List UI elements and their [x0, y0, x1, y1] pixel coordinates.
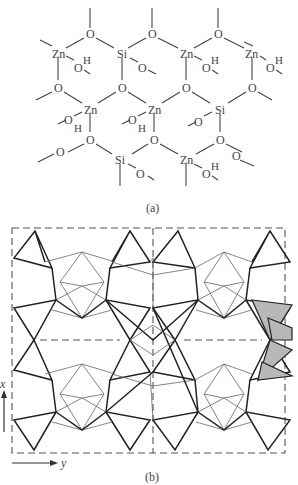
y-axis-arrowhead-icon [50, 460, 58, 466]
hydroxyl-oxygen: O [202, 167, 211, 181]
oxygen-atom: O [248, 81, 257, 95]
zinc-atom: Zn [245, 47, 258, 61]
zinc-atom: Zn [148, 103, 161, 117]
oxygen-atom: O [182, 81, 191, 95]
zinc-atom: Zn [84, 103, 97, 117]
oxygen-atom: O [86, 133, 95, 147]
y-axis-label: y [60, 456, 67, 470]
connecting-octahedra [45, 252, 252, 430]
hydroxyl-oxygen: O [74, 61, 83, 75]
silicon-atom: Si [115, 153, 126, 167]
silicon-atom: Si [215, 103, 226, 117]
zinc-atom: Zn [180, 47, 193, 61]
hydroxyl-hydrogen: H [138, 122, 146, 134]
hydroxyl-hydrogen: H [211, 54, 219, 66]
x-axis-arrowhead-icon [1, 390, 7, 398]
panel-a-atom-labels: O O O Zn Si Zn Zn O H O O H O H O O O O … [52, 27, 283, 181]
panel-b-polyhedral-projection: x y (b) [0, 228, 292, 484]
zinc-atom: Zn [180, 153, 193, 167]
hydroxyl-hydrogen: H [211, 160, 219, 172]
zinc-atom: Zn [52, 47, 65, 61]
panel-a-bonds [36, 8, 282, 186]
oxygen-atom: O [148, 27, 157, 41]
hydroxyl-hydrogen: H [275, 54, 283, 66]
hydroxyl-oxygen: O [266, 61, 275, 75]
hydroxyl-oxygen: O [128, 113, 137, 127]
silicon-atom: Si [117, 47, 128, 61]
oxygen-atom: O [214, 27, 223, 41]
structure-figure: O O O Zn Si Zn Zn O H O O H O H O O O O … [0, 0, 298, 485]
oxygen-atom: O [54, 81, 63, 95]
oxygen-atom: O [216, 133, 225, 147]
oxygen-atom: O [56, 145, 65, 159]
oxygen-atom: O [138, 61, 147, 75]
oxygen-atom: O [150, 133, 159, 147]
oxygen-atom: O [86, 27, 95, 41]
oxygen-atom: O [232, 149, 241, 163]
hydroxyl-hydrogen: H [74, 122, 82, 134]
panel-a-molecular-network: O O O Zn Si Zn Zn O H O O H O H O O O O … [36, 8, 283, 215]
shaded-polyhedron-chain [252, 300, 292, 380]
oxygen-atom: O [136, 167, 145, 181]
hydroxyl-hydrogen: H [83, 54, 91, 66]
hydroxyl-oxygen: O [64, 113, 73, 127]
hydroxyl-oxygen: O [202, 61, 211, 75]
oxygen-atom: O [194, 115, 203, 129]
panel-b-caption: (b) [145, 470, 159, 484]
oxygen-atom: O [118, 81, 127, 95]
x-axis-label: x [0, 377, 6, 391]
panel-a-caption: (a) [146, 201, 159, 215]
